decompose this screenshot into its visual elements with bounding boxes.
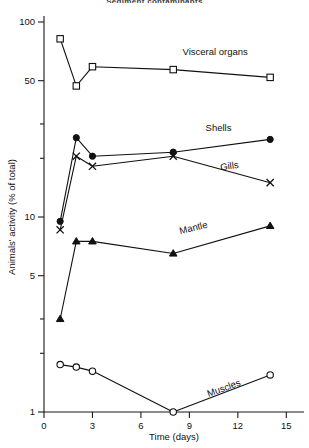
x-axis-title: Time (days) bbox=[149, 431, 199, 442]
x-tick-label: 0 bbox=[41, 420, 46, 431]
x-tick-label: 15 bbox=[281, 420, 292, 431]
data-point-marker bbox=[267, 74, 273, 80]
series-gills bbox=[57, 153, 274, 234]
line-chart-canvas: 15105010003691215 Visceral organsShellsG… bbox=[0, 0, 309, 448]
series-label: Visceral organs bbox=[183, 46, 249, 57]
series-mantle bbox=[56, 222, 274, 321]
data-point-marker bbox=[170, 409, 176, 415]
data-point-marker bbox=[57, 36, 63, 42]
data-point-marker bbox=[267, 136, 273, 142]
series-label: Muscles bbox=[205, 377, 242, 399]
x-tick-label: 3 bbox=[90, 420, 95, 431]
y-tick-label: 50 bbox=[24, 75, 35, 86]
series-shells bbox=[57, 135, 273, 225]
data-point-marker bbox=[89, 63, 95, 69]
y-tick-label: 5 bbox=[30, 270, 35, 281]
x-tick-label: 6 bbox=[138, 420, 143, 431]
data-point-marker bbox=[73, 364, 79, 370]
x-tick-label: 12 bbox=[233, 420, 244, 431]
data-point-marker bbox=[73, 135, 79, 141]
x-tick-label: 9 bbox=[187, 420, 192, 431]
chart-series-group bbox=[56, 36, 274, 416]
data-point-marker bbox=[267, 372, 273, 378]
data-point-marker bbox=[89, 238, 97, 244]
data-point-marker bbox=[89, 153, 95, 159]
figure-root: Sediment contaminants 15105010003691215 … bbox=[0, 0, 309, 448]
series-label: Gills bbox=[219, 159, 239, 172]
series-label: Shells bbox=[206, 122, 232, 133]
y-tick-label: 1 bbox=[30, 406, 35, 417]
data-point-marker bbox=[73, 238, 81, 244]
data-point-marker bbox=[170, 66, 176, 72]
series-visceral-organs bbox=[57, 36, 273, 90]
y-axis-title: Animals' activity (% of total) bbox=[6, 159, 17, 275]
series-annotations: Visceral organsShellsGillsMantleMuscles bbox=[178, 46, 248, 399]
data-point-marker bbox=[56, 315, 64, 321]
data-point-marker bbox=[266, 222, 274, 228]
axis-frame bbox=[44, 16, 304, 412]
data-point-marker bbox=[57, 226, 64, 233]
y-tick-label: 100 bbox=[19, 16, 35, 27]
data-point-marker bbox=[57, 361, 63, 367]
y-tick-label: 10 bbox=[24, 211, 35, 222]
series-path bbox=[60, 138, 270, 222]
data-point-marker bbox=[267, 179, 274, 186]
data-point-marker bbox=[89, 368, 95, 374]
series-label: Mantle bbox=[178, 219, 208, 237]
axis-titles: Time (days)Animals' activity (% of total… bbox=[6, 159, 199, 442]
data-point-marker bbox=[73, 83, 79, 89]
series-muscles bbox=[57, 361, 273, 415]
